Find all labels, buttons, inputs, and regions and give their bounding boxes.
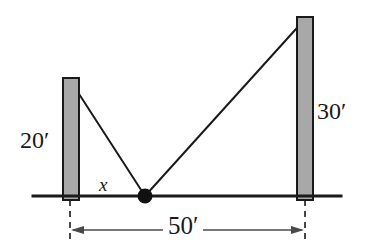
right-wire-line	[145, 19, 305, 196]
figure-container: 20′ 30′ 50′ x	[0, 0, 366, 247]
left-pole-height-label: 20′	[20, 128, 49, 152]
left-pole	[63, 78, 79, 200]
ground-span-label: 50′	[163, 213, 203, 238]
right-pole-height-label: 30′	[317, 99, 346, 123]
left-wire-line	[70, 80, 145, 196]
unknown-distance-label: x	[99, 175, 107, 194]
dimension-arrow-left	[71, 226, 84, 234]
diagram-canvas	[0, 0, 366, 247]
right-pole	[297, 17, 313, 200]
stake-point	[138, 189, 153, 204]
dimension-arrow-right	[291, 226, 304, 234]
